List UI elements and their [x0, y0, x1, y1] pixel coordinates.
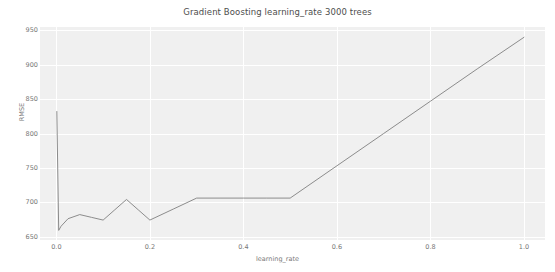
chart-title: Gradient Boosting learning_rate 3000 tre…	[0, 7, 555, 17]
y-tick-label: 900	[0, 61, 38, 69]
data-series-line	[40, 27, 545, 240]
x-tick-label: 0.0	[36, 243, 76, 251]
x-axis-title: learning_rate	[0, 255, 555, 263]
y-tick-label: 650	[0, 233, 38, 241]
x-tick-label: 0.8	[410, 243, 450, 251]
x-tick-label: 1.0	[504, 243, 544, 251]
x-tick-label: 0.4	[223, 243, 263, 251]
y-axis-title: RMSE	[18, 82, 26, 142]
plot-area	[40, 27, 545, 240]
y-tick-label: 950	[0, 26, 38, 34]
y-tick-label: 750	[0, 164, 38, 172]
y-tick-label: 700	[0, 198, 38, 206]
chart-figure: Gradient Boosting learning_rate 3000 tre…	[0, 0, 555, 272]
x-tick-label: 0.6	[317, 243, 357, 251]
x-tick-label: 0.2	[130, 243, 170, 251]
